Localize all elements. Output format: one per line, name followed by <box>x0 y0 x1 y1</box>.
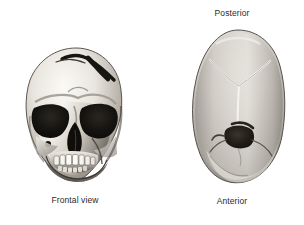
caption-posterior: Posterior <box>182 8 282 18</box>
skull-vertex-image <box>188 28 288 186</box>
skull-frontal-image <box>22 46 130 186</box>
caption-frontal-view: Frontal view <box>0 195 150 205</box>
maxillary-teeth <box>54 155 95 166</box>
figure-plate: Frontal view Posterior Anterior <box>0 0 304 225</box>
caption-anterior: Anterior <box>182 196 282 206</box>
skull-vertex-icon <box>188 28 288 186</box>
skull-frontal-icon <box>22 46 130 186</box>
